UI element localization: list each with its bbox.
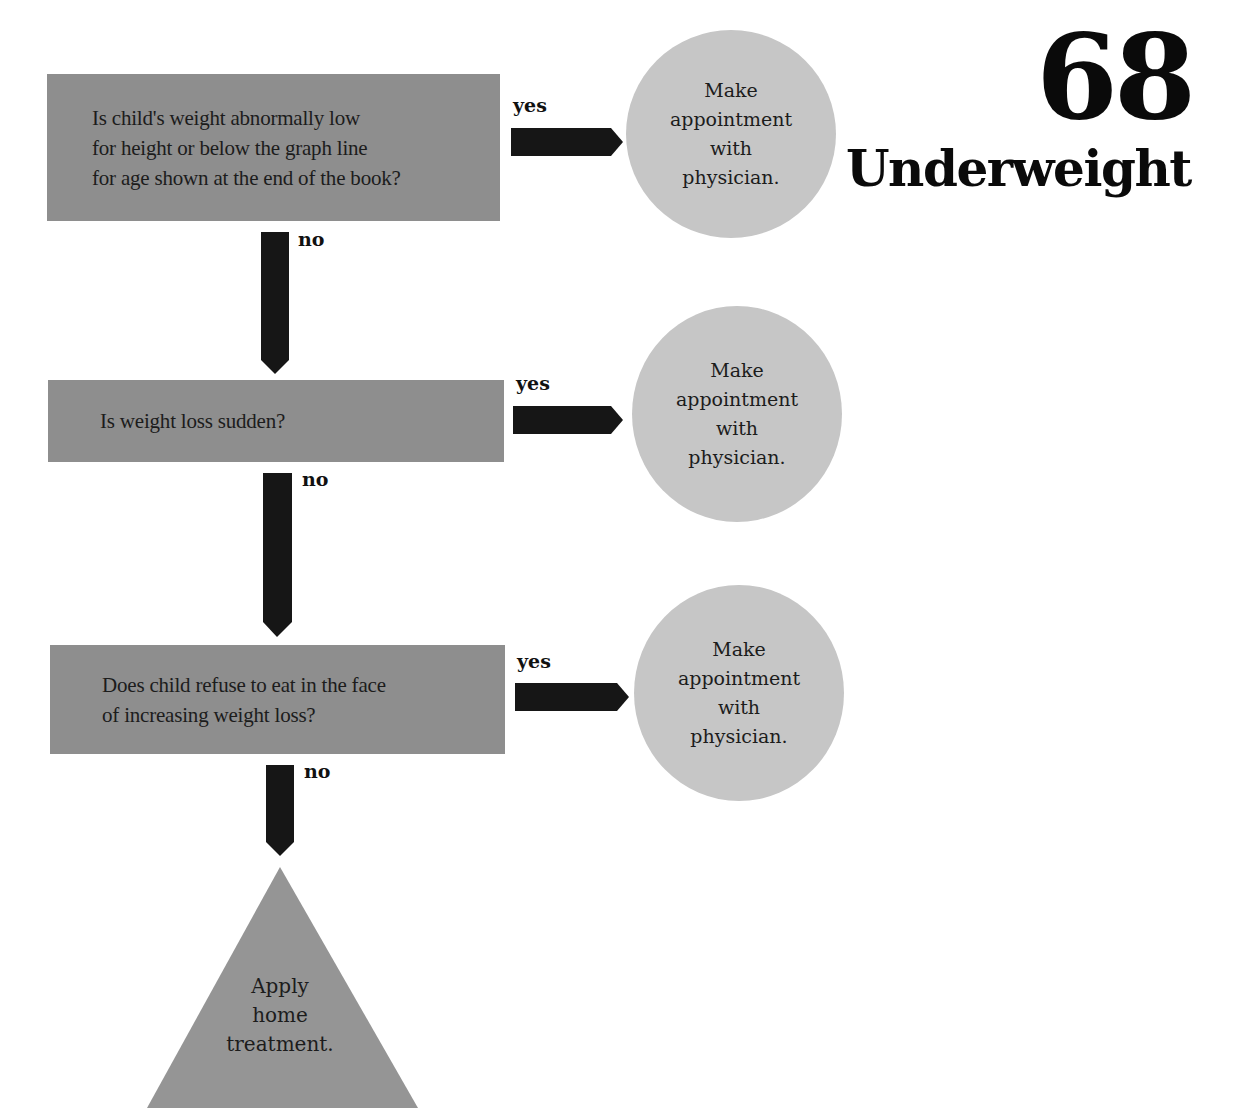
question-box-1: Is child's weight abnormally low for hei… (47, 74, 500, 221)
outcome-circle-3: Make appointment with physician. (634, 585, 844, 801)
question-text-2: Is weight loss sudden? (100, 406, 285, 436)
yes-label-1: yes (513, 94, 547, 116)
yes-label-2: yes (516, 372, 550, 394)
yes-label-3: yes (517, 650, 551, 672)
question-box-2: Is weight loss sudden? (48, 380, 504, 462)
no-label-3: no (304, 760, 331, 782)
yes-arrow-1 (511, 128, 623, 156)
yes-arrow-3 (515, 683, 629, 711)
outcome-text-2: Make appointment with physician. (676, 356, 798, 472)
no-arrow-3 (266, 765, 294, 856)
no-arrow-1 (261, 232, 289, 374)
outcome-text-1: Make appointment with physician. (670, 76, 792, 192)
no-label-2: no (302, 468, 329, 490)
home-treatment-text: Apply home treatment. (200, 972, 360, 1059)
no-arrow-2 (263, 473, 292, 637)
outcome-circle-1: Make appointment with physician. (626, 30, 836, 238)
chart-number: 68 (1036, 18, 1192, 136)
question-text-1: Is child's weight abnormally low for hei… (92, 103, 401, 193)
yes-arrow-2 (513, 406, 623, 434)
outcome-circle-2: Make appointment with physician. (632, 306, 842, 522)
no-label-1: no (298, 228, 325, 250)
chart-title: Underweight (846, 144, 1191, 194)
question-text-3: Does child refuse to eat in the face of … (102, 670, 386, 730)
outcome-text-3: Make appointment with physician. (678, 635, 800, 751)
question-box-3: Does child refuse to eat in the face of … (50, 645, 505, 754)
